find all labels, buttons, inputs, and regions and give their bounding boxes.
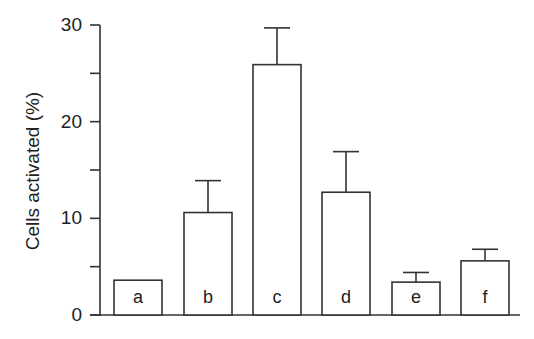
bar-label-e: e (392, 288, 440, 306)
bar-c (253, 65, 301, 315)
bar-label-a: a (114, 288, 162, 306)
bar-label-c: c (253, 288, 301, 306)
y-tick-label: 30 (42, 15, 82, 34)
y-tick-label: 0 (42, 305, 82, 324)
y-tick-label: 20 (42, 112, 82, 131)
y-axis-label: Cells activated (%) (22, 81, 44, 261)
bar-label-f: f (461, 288, 509, 306)
bar-label-b: b (184, 288, 232, 306)
bar-label-d: d (322, 288, 370, 306)
y-tick-label: 10 (42, 208, 82, 227)
bar-chart: Cells activated (%) 0102030 abcdef (0, 0, 534, 339)
